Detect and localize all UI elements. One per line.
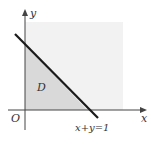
line-label: x+y=1	[75, 122, 109, 133]
region-label: D	[36, 81, 46, 94]
y-axis-label: y	[29, 7, 37, 20]
y-axis-arrow-icon	[22, 9, 28, 16]
region-diagram: y x O D x+y=1	[0, 0, 151, 147]
x-axis-label: x	[141, 112, 148, 125]
origin-label: O	[11, 112, 20, 125]
